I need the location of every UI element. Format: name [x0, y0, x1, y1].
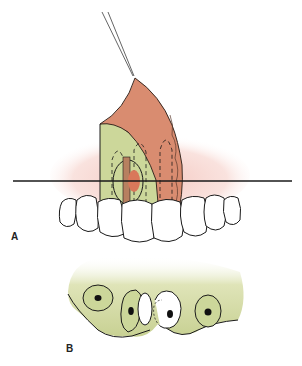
socket [138, 293, 152, 325]
root-canal [95, 295, 102, 301]
suture-thread-2 [108, 12, 134, 76]
root-canal [167, 310, 173, 318]
panel-a [13, 12, 292, 242]
tooth [121, 200, 154, 242]
tooth [97, 198, 124, 236]
tooth [59, 198, 76, 226]
panel-label-b: B [66, 343, 73, 354]
suture-thread-1 [102, 12, 133, 76]
tooth [223, 196, 240, 224]
root-canal [205, 309, 212, 316]
tooth [180, 196, 207, 236]
tooth [76, 195, 99, 231]
panel-label-a: A [11, 231, 18, 242]
root-canal [128, 307, 134, 315]
illustration-svg [0, 0, 302, 366]
panel-b [68, 257, 244, 338]
tooth [151, 199, 183, 241]
tooth [204, 195, 226, 230]
dental-illustration: A B [0, 0, 302, 366]
